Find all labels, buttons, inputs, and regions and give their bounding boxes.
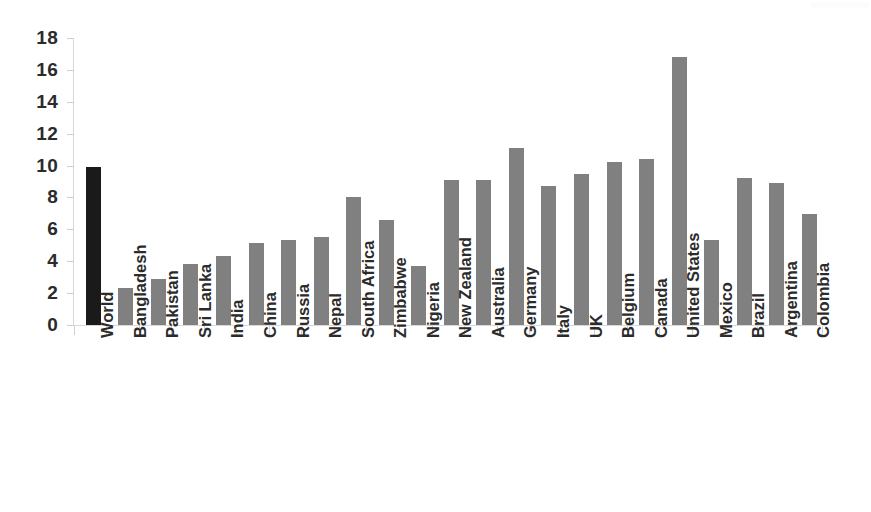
- bar-chart: 181614121086420 WorldBangladeshPakistanS…: [0, 0, 871, 512]
- y-axis-tick-mark: [67, 293, 74, 294]
- x-axis-label-germany: Germany: [522, 338, 523, 339]
- x-axis-label-text: Argentina: [783, 261, 800, 338]
- y-axis-tick-label: 16: [0, 60, 58, 79]
- x-axis-label-text: United States: [685, 233, 702, 338]
- y-axis-tick-label: 14: [0, 92, 58, 111]
- x-axis-label-text: Nigeria: [425, 282, 442, 338]
- x-axis-label-australia: Australia: [490, 338, 491, 339]
- x-axis-label-new-zealand: New Zealand: [457, 338, 458, 339]
- x-axis-label-text: World: [99, 292, 116, 338]
- x-axis-label-text: Italy: [555, 305, 572, 338]
- y-axis-tick-label-text: 16: [0, 60, 58, 79]
- x-axis-label-text: New Zealand: [457, 237, 474, 338]
- y-axis-tick-mark: [67, 102, 74, 103]
- x-axis-label-pakistan: Pakistan: [164, 338, 165, 339]
- x-axis-label-text: Canada: [653, 278, 670, 338]
- x-axis-label-mexico: Mexico: [718, 338, 719, 339]
- x-axis-label-zimbabwe: Zimbabwe: [392, 338, 393, 339]
- y-axis-tick-mark: [67, 134, 74, 135]
- x-axis-label-italy: Italy: [555, 338, 556, 339]
- y-axis-tick-label: 2: [0, 283, 58, 302]
- y-axis-tick-label-text: 8: [0, 187, 58, 206]
- y-axis-tick-label: 4: [0, 251, 58, 270]
- x-axis-label-text: Colombia: [815, 263, 832, 338]
- y-axis-tick-label: 6: [0, 219, 58, 238]
- y-axis-tick-mark: [67, 197, 74, 198]
- x-axis-label-colombia: Colombia: [815, 338, 816, 339]
- x-axis-label-united-states: United States: [685, 338, 686, 339]
- y-axis-tick-mark: [67, 38, 74, 39]
- y-axis-tick-label-text: 6: [0, 219, 58, 238]
- y-axis-tick-label: 18: [0, 28, 58, 47]
- y-axis-tick-label: 10: [0, 156, 58, 175]
- y-axis-tick-label-text: 2: [0, 283, 58, 302]
- y-axis-tick-label-text: 12: [0, 124, 58, 143]
- y-axis-tick-label: 0: [0, 315, 58, 334]
- x-axis-label-sri-lanka: Sri Lanka: [197, 338, 198, 339]
- y-axis-tick-label: 12: [0, 124, 58, 143]
- x-axis-label-nigeria: Nigeria: [425, 338, 426, 339]
- y-axis-tick-label-text: 10: [0, 156, 58, 175]
- corner-artifact: [811, 2, 869, 8]
- x-axis-label-text: Sri Lanka: [197, 264, 214, 338]
- x-axis-label-text: India: [229, 299, 246, 338]
- x-axis-label-text: Belgium: [620, 273, 637, 338]
- x-axis-line: [73, 325, 821, 326]
- x-axis-label-nepal: Nepal: [327, 338, 328, 339]
- x-axis-label-argentina: Argentina: [783, 338, 784, 339]
- x-axis-label-bangladesh: Bangladesh: [132, 338, 133, 339]
- x-axis-label-text: Germany: [522, 266, 539, 338]
- x-axis-label-text: Mexico: [718, 282, 735, 338]
- x-axis-label-south-africa: South Africa: [360, 338, 361, 339]
- x-axis-tick-mark: [74, 326, 75, 335]
- x-axis-label-text: Australia: [490, 267, 507, 338]
- x-axis-label-text: South Africa: [360, 241, 377, 338]
- x-axis-label-text: Nepal: [327, 293, 344, 338]
- x-axis-label-text: China: [262, 292, 279, 338]
- y-axis-tick-label-text: 4: [0, 251, 58, 270]
- plot-area: [74, 38, 820, 325]
- y-axis-tick-label: 8: [0, 187, 58, 206]
- y-axis-tick-mark: [67, 261, 74, 262]
- x-axis-label-text: Russia: [295, 284, 312, 338]
- x-axis-label-china: China: [262, 338, 263, 339]
- y-axis-tick-label-text: 14: [0, 92, 58, 111]
- x-axis-label-russia: Russia: [295, 338, 296, 339]
- x-axis-label-belgium: Belgium: [620, 338, 621, 339]
- x-axis-label-india: India: [229, 338, 230, 339]
- bar-uk: [574, 174, 589, 325]
- y-axis-tick-label-text: 0: [0, 315, 58, 334]
- x-axis-label-text: Pakistan: [164, 270, 181, 338]
- y-axis-tick-mark: [67, 70, 74, 71]
- x-axis-label-text: Brazil: [750, 293, 767, 338]
- x-axis-label-text: Bangladesh: [132, 244, 149, 338]
- x-axis-label-text: Zimbabwe: [392, 257, 409, 338]
- y-axis-tick-mark: [67, 229, 74, 230]
- x-axis-label-text: UK: [588, 314, 605, 338]
- x-axis-label-uk: UK: [588, 338, 589, 339]
- x-axis-label-canada: Canada: [653, 338, 654, 339]
- x-axis-label-brazil: Brazil: [750, 338, 751, 339]
- y-axis-tick-mark: [67, 166, 74, 167]
- y-axis-tick-label-text: 18: [0, 28, 58, 47]
- x-axis-label-world: World: [99, 338, 100, 339]
